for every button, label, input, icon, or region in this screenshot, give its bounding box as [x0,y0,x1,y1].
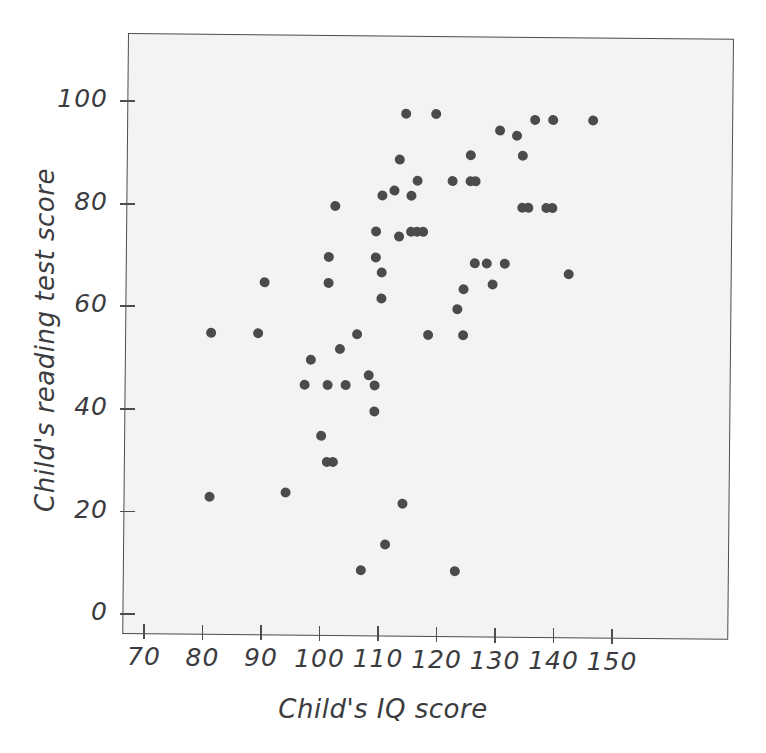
data-point [518,151,528,161]
data-point [369,406,379,416]
data-point [324,252,334,262]
data-point [370,380,380,390]
data-point [206,328,216,338]
x-tick-mark [611,629,613,644]
data-point [330,201,340,211]
y-tick-mark [120,203,135,205]
data-point [465,151,475,161]
data-point [548,115,558,125]
data-point [377,191,387,201]
data-point [394,232,404,242]
data-point [340,380,350,390]
y-tick-mark [120,100,135,102]
data-point [589,116,599,126]
scatter-plot-figure: 020406080100 708090100110120130140150 Ch… [0,0,766,753]
data-point [395,155,405,165]
data-point [371,227,381,237]
data-point [458,284,468,294]
data-point [259,277,269,287]
data-point [356,565,366,575]
x-tick-mark [436,627,438,642]
data-point [470,258,480,268]
data-point [401,109,411,119]
x-tick-mark [202,625,204,640]
data-point [458,330,468,340]
data-point [205,492,215,502]
data-point [377,268,387,278]
data-point [450,566,460,576]
data-point [523,202,533,212]
data-point [471,176,481,186]
x-tick-label: 150 [577,647,647,676]
data-point [323,380,333,390]
data-point [452,304,462,314]
data-point [499,259,509,269]
y-tick-mark [120,511,135,513]
data-point [412,176,422,186]
data-point [530,115,540,125]
data-point [376,293,386,303]
y-tick-label: 0 [28,597,108,626]
y-tick-mark [120,305,135,307]
data-point [512,130,522,140]
data-point [316,431,326,441]
data-point [305,354,315,364]
x-tick-mark [319,626,321,641]
data-point [398,499,408,509]
plot-data-area [122,33,734,640]
data-point [335,344,345,354]
data-point [299,380,309,390]
x-axis-title: Child's IQ score [0,694,766,724]
data-point [448,176,458,186]
data-point [564,269,574,279]
data-point [482,258,492,268]
x-tick-mark [260,625,262,640]
data-point [547,203,557,213]
data-point [380,540,390,550]
data-point [423,330,433,340]
data-point [371,252,381,262]
data-point [431,109,441,119]
x-tick-mark [494,628,496,643]
y-axis-title: Child's reading test score [30,80,60,600]
data-point [328,457,338,467]
data-point [488,279,498,289]
data-point [418,227,428,237]
x-tick-mark [143,624,145,639]
data-point [406,191,416,201]
data-point [281,487,291,497]
data-point [324,277,334,287]
data-point [389,186,399,196]
data-point [364,370,374,380]
data-point [253,328,263,338]
y-tick-mark [120,613,135,615]
x-tick-mark [553,628,555,643]
data-point [495,125,505,135]
y-tick-mark [120,408,135,410]
data-point [353,329,363,339]
x-tick-mark [377,626,379,641]
